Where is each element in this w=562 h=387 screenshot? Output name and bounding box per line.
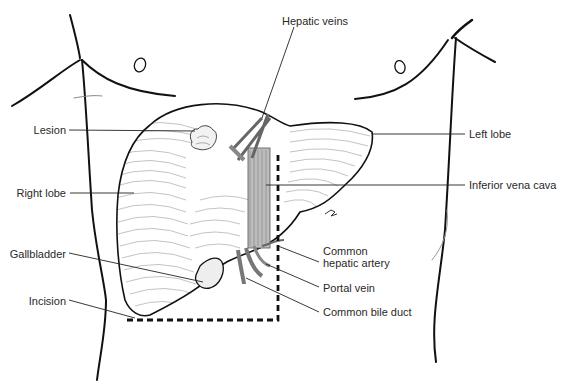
label-portal-vein: Portal vein [323,282,375,294]
label-right-lobe: Right lobe [10,187,66,199]
ligament-icon [325,210,337,216]
label-gallbladder: Gallbladder [4,248,66,260]
anatomy-illustration [0,0,562,387]
lesion-shape [190,126,216,150]
gallbladder-shape [196,258,224,288]
nipple-right-icon [393,59,406,74]
label-incision: Incision [20,295,66,307]
nipple-left-icon [132,57,147,74]
label-left-lobe: Left lobe [469,128,511,140]
label-common-hepatic-artery-line1: Common [323,245,368,257]
label-lesion: Lesion [28,124,66,136]
label-common-hepatic-artery-line2: hepatic artery [323,257,390,269]
label-common-bile-duct: Common bile duct [323,306,412,318]
label-hepatic-veins: Hepatic veins [282,15,348,27]
label-inferior-vena-cava: Inferior vena cava [469,179,556,191]
liver-diagram: Hepatic veins Lesion Left lobe Right lob… [0,0,562,387]
